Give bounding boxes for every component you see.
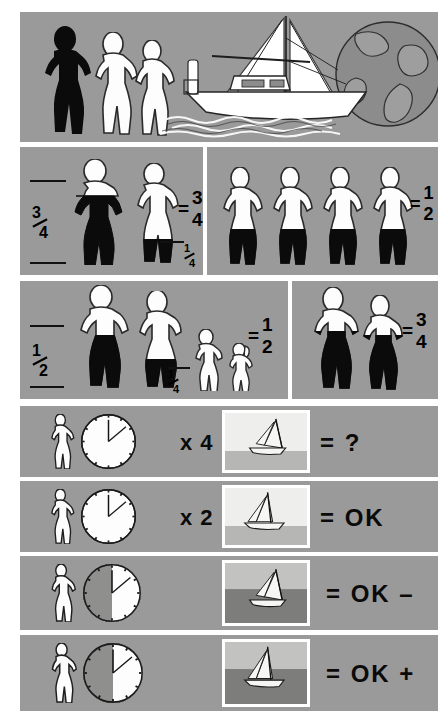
row3-figure-adult-male xyxy=(70,285,132,391)
row-sailboat-photo xyxy=(222,560,310,626)
row-result-label: = OK + xyxy=(326,660,415,688)
row2r-figure-4 xyxy=(365,167,415,267)
fraction-denominator: 4 xyxy=(416,331,427,352)
row-multiplier-label: x 2 xyxy=(180,505,214,531)
row-sailboat-photo xyxy=(222,410,310,473)
equals-sign: = xyxy=(248,325,259,347)
row3-figure-child xyxy=(188,329,224,391)
row-clock-icon xyxy=(82,642,144,704)
row-figure-person xyxy=(46,414,75,469)
comparison-row-row-ok-minus: = OK – xyxy=(20,556,438,630)
row3-left-result: = 1 2 xyxy=(248,314,288,358)
header-panel xyxy=(20,12,438,142)
illustration-page: 3 4 xyxy=(0,0,448,724)
comparison-row-row-x2: x 2= OK xyxy=(20,481,438,552)
fraction-denominator: 4 xyxy=(184,258,195,269)
row-result-label: = ? xyxy=(320,429,361,457)
fraction-numerator: 3 xyxy=(192,187,203,208)
row2-quarter-fraction: 1 4 xyxy=(184,243,195,269)
row-result-label: = OK – xyxy=(326,580,415,608)
row3-left-panel: 1 2 xyxy=(20,281,288,399)
row2-bottom-rule xyxy=(30,262,66,264)
equals-sign: = xyxy=(402,320,413,342)
row2r-figure-2 xyxy=(265,167,315,267)
row3-right-panel: = 3 4 xyxy=(292,281,438,399)
row3-top-rule xyxy=(30,325,64,327)
row3-bottom-rule xyxy=(30,386,64,388)
row2-right-panel: = 1 2 xyxy=(207,147,438,275)
fraction-numerator: 3 xyxy=(416,309,427,330)
row3r-figure-2 xyxy=(354,295,406,391)
row2-figure-black xyxy=(64,159,126,265)
fraction-denominator: 4 xyxy=(192,209,203,230)
row-multiplier-label: x 4 xyxy=(180,430,214,456)
row-clock-icon xyxy=(80,488,137,545)
row2-quarter-rule xyxy=(160,241,184,243)
fraction-numerator: 1 xyxy=(262,314,273,335)
equals-sign: = xyxy=(410,194,421,215)
fraction-denominator: 2 xyxy=(262,336,273,357)
equals-sign: = xyxy=(178,198,189,220)
row-clock-icon xyxy=(82,563,142,623)
fraction-denominator: 2 xyxy=(424,204,434,224)
row-figure-person xyxy=(46,643,77,703)
row2-figure-white-quarter xyxy=(125,163,183,265)
row2-left-panel: 3 4 xyxy=(20,147,203,275)
row-figure-person xyxy=(46,489,75,544)
comparison-row-row-ok-plus: = OK + xyxy=(20,635,438,711)
header-boat-globe-illustration xyxy=(160,12,438,142)
row2r-figure-3 xyxy=(315,167,365,267)
row2-left-fraction: 3 4 xyxy=(32,205,48,241)
row2-top-rule xyxy=(30,180,66,182)
row2-right-result: = 1 2 xyxy=(410,183,438,225)
row3-left-fraction: 1 2 xyxy=(32,343,48,379)
row3-quarter-fraction: 1 4 xyxy=(168,369,179,395)
fraction-denominator: 2 xyxy=(32,363,48,379)
fraction-denominator: 4 xyxy=(168,384,179,395)
fraction-denominator: 4 xyxy=(32,225,48,241)
row-result-label: = OK xyxy=(320,504,385,532)
row2r-figure-1 xyxy=(215,167,265,267)
row-sailboat-photo xyxy=(222,639,310,707)
row-figure-person xyxy=(46,564,76,622)
row-clock-icon xyxy=(80,413,137,470)
row2-left-result: = 3 4 xyxy=(178,187,203,231)
row3-right-result: = 3 4 xyxy=(402,309,438,353)
row-sailboat-photo xyxy=(222,485,310,548)
comparison-row-row-x4: x 4= ? xyxy=(20,406,438,477)
fraction-numerator: 1 xyxy=(424,183,434,203)
